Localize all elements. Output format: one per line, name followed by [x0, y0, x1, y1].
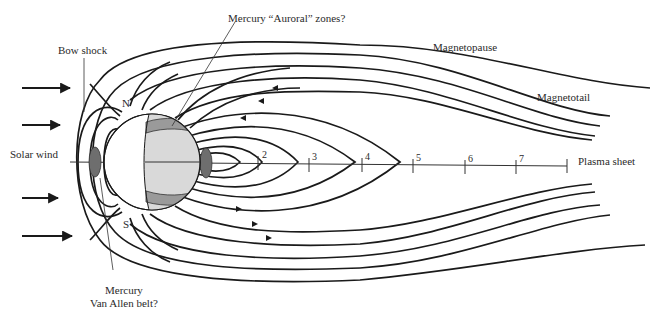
scale-tick-5: 5	[416, 152, 421, 163]
van-allen-belt-dayside	[89, 147, 101, 177]
label-auroral-zones: Mercury “Auroral” zones?	[228, 12, 345, 24]
label-magnetotail: Magnetotail	[537, 91, 590, 103]
scale-tick-2: 2	[262, 149, 267, 160]
planet-mercury	[104, 110, 210, 214]
arrowhead-icon	[240, 115, 246, 121]
label-van-allen-line2: Van Allen belt?	[90, 297, 158, 309]
scale-tick-6: 6	[468, 153, 473, 164]
label-north: N	[122, 97, 130, 109]
arrowhead-icon	[236, 206, 242, 212]
label-south: S	[123, 218, 129, 230]
label-bow-shock: Bow shock	[58, 44, 108, 56]
arrowhead-icon	[252, 221, 258, 227]
arrowhead-icon	[258, 98, 264, 104]
scale-tick-7: 7	[519, 153, 524, 164]
label-plasma-sheet: Plasma sheet	[578, 155, 635, 167]
van-allen-belt-nightside	[200, 148, 212, 178]
magnetosphere-diagram: 2 3 4 5 6 7 Mercury “Auroral” zones? Bow…	[0, 0, 661, 313]
scale-tick-3: 3	[312, 151, 317, 162]
auroral-leader-line	[172, 22, 235, 126]
label-magnetopause: Magnetopause	[433, 41, 497, 53]
arrowhead-icon	[266, 235, 272, 241]
solar-wind-arrows	[22, 88, 72, 236]
scale-tick-4: 4	[365, 151, 370, 162]
label-solar-wind: Solar wind	[10, 148, 58, 160]
label-van-allen-line1: Mercury	[105, 284, 143, 296]
diagram-canvas: 2 3 4 5 6 7 Mercury “Auroral” zones? Bow…	[0, 0, 661, 313]
